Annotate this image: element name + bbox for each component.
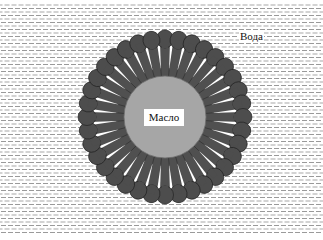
surfactant-stem xyxy=(233,129,242,131)
surfactant-stem xyxy=(230,141,238,144)
surfactant-stem xyxy=(200,177,205,185)
surfactant-stem xyxy=(88,103,97,105)
surfactant-stem xyxy=(189,182,192,190)
surfactant-stem xyxy=(225,152,233,157)
surfactant-stem xyxy=(189,44,192,52)
surfactant-stem xyxy=(200,49,205,57)
surfactant-stem xyxy=(138,44,141,52)
surfactant-stem xyxy=(151,185,153,194)
surfactant-stem xyxy=(97,152,105,157)
water-label: Вода xyxy=(239,31,264,42)
surfactant-stem xyxy=(92,141,100,144)
surfactant-stem xyxy=(233,103,242,105)
surfactant-stem xyxy=(177,40,179,49)
surfactant-stem xyxy=(225,78,233,83)
surfactant-stem xyxy=(177,185,179,194)
surfactant-stem xyxy=(138,182,141,190)
surfactant-stem xyxy=(92,90,100,93)
surfactant-stem xyxy=(126,177,131,185)
oil-label: Масло xyxy=(144,109,184,126)
surfactant-stem xyxy=(97,78,105,83)
surfactant-stem xyxy=(230,90,238,93)
surfactant-stem xyxy=(151,40,153,49)
surfactant-stem xyxy=(88,129,97,131)
surfactant-stem xyxy=(126,49,131,57)
